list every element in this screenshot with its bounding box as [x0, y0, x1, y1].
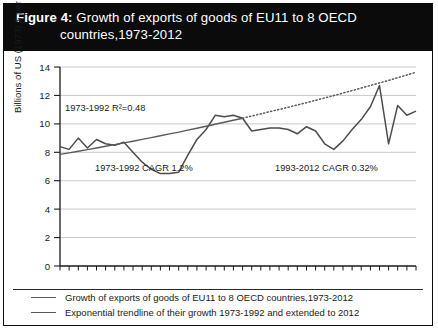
legend-label-series: Growth of exports of goods of EU11 to 8 …: [65, 292, 353, 303]
figure-title-line-1: Figure 4: Growth of exports of goods of …: [16, 10, 420, 27]
figure-title-text-1: Growth of exports of goods of EU11 to 8 …: [76, 10, 357, 25]
chart-legend: Growth of exports of goods of EU11 to 8 …: [4, 290, 432, 320]
y-tick-label-12: 12: [39, 90, 50, 101]
y-tick-label-6: 6: [45, 175, 50, 186]
figure-title-line-2: countries,1973-2012: [16, 27, 420, 44]
legend-swatch-series-icon: [31, 297, 56, 298]
chart-canvas: 14 12 10 8 6 4 2 0 1975 1980 1985 1990 1…: [4, 51, 434, 273]
grid-lines: [60, 67, 416, 238]
legend-swatch-trendline-icon: [31, 312, 56, 313]
y-tick-label-2: 2: [45, 232, 50, 243]
y-tick-label-14: 14: [39, 62, 50, 73]
annotation-r-squared: 1973-1992 R²=0.48: [65, 103, 145, 113]
figure-label: Figure 4:: [16, 10, 73, 25]
legend-item-series: Growth of exports of goods of EU11 to 8 …: [4, 290, 432, 305]
x-tick-marks: [60, 266, 416, 271]
figure-title-band: Figure 4: Growth of exports of goods of …: [4, 4, 432, 51]
legend-label-trendline: Exponential trendline of their growth 19…: [65, 307, 359, 318]
figure-frame: Figure 4: Growth of exports of goods of …: [3, 3, 433, 326]
y-tick-label-8: 8: [45, 147, 50, 158]
y-tick-label-0: 0: [45, 261, 50, 272]
legend-item-trendline: Exponential trendline of their growth 19…: [4, 305, 432, 320]
series-line-exports: [60, 86, 416, 174]
annotation-cagr-early: 1973-1992 CAGR 1.2%: [95, 163, 193, 173]
plot-area: Billions of US (1973) $ per month: [4, 51, 432, 326]
y-tick-marks: [54, 67, 60, 266]
annotation-cagr-late: 1993-2012 CAGR 0.32%: [275, 163, 378, 173]
y-tick-label-10: 10: [39, 118, 50, 129]
y-tick-label-4: 4: [45, 204, 51, 215]
